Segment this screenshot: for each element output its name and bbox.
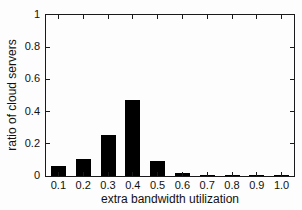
y-tick-label: 1 — [0, 8, 40, 20]
x-tick-label: 0.1 — [51, 179, 66, 191]
x-tick-bottom — [207, 172, 208, 176]
y-tick-right — [290, 79, 294, 80]
y-tick-right — [290, 47, 294, 48]
y-tick-left — [46, 47, 50, 48]
x-tick-top — [207, 15, 208, 19]
x-tick-top — [256, 15, 257, 19]
x-tick-label: 0.5 — [150, 179, 165, 191]
y-tick-left — [46, 79, 50, 80]
x-tick-label: 0.8 — [224, 179, 239, 191]
x-tick-bottom — [83, 172, 84, 176]
y-tick-label: 0.4 — [0, 105, 40, 117]
x-tick-bottom — [182, 172, 183, 176]
x-tick-label: 0.4 — [125, 179, 140, 191]
x-tick-label: 0.2 — [76, 179, 91, 191]
x-tick-bottom — [58, 172, 59, 176]
bar — [125, 100, 140, 176]
x-tick-label: 1.0 — [274, 179, 289, 191]
x-axis-label: extra bandwidth utilization — [45, 192, 295, 206]
x-tick-bottom — [281, 172, 282, 176]
y-tick-right — [290, 143, 294, 144]
x-tick-top — [132, 15, 133, 19]
x-tick-bottom — [256, 172, 257, 176]
x-tick-label: 0.3 — [100, 179, 115, 191]
y-axis-label: ratio of cloud servers — [5, 39, 19, 150]
x-tick-bottom — [157, 172, 158, 176]
bar — [101, 135, 116, 176]
y-tick-left — [46, 143, 50, 144]
y-tick-label: 0.2 — [0, 137, 40, 149]
x-tick-top — [157, 15, 158, 19]
y-tick-label: 0.8 — [0, 40, 40, 52]
y-tick-label: 0 — [0, 169, 40, 181]
y-tick-right — [290, 111, 294, 112]
x-tick-bottom — [132, 172, 133, 176]
x-tick-label: 0.6 — [175, 179, 190, 191]
x-tick-top — [108, 15, 109, 19]
y-tick-left — [46, 111, 50, 112]
x-tick-top — [232, 15, 233, 19]
x-tick-bottom — [232, 172, 233, 176]
x-tick-top — [58, 15, 59, 19]
y-tick-label: 0.6 — [0, 72, 40, 84]
x-tick-top — [83, 15, 84, 19]
x-tick-bottom — [108, 172, 109, 176]
x-tick-top — [182, 15, 183, 19]
x-tick-label: 0.9 — [249, 179, 264, 191]
bar-chart-figure: ratio of cloud servers extra bandwidth u… — [0, 0, 302, 210]
x-tick-top — [281, 15, 282, 19]
plot-area — [45, 14, 295, 177]
x-tick-label: 0.7 — [200, 179, 215, 191]
